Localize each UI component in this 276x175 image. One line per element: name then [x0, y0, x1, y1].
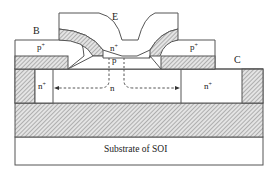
- right-spacer-oxide: [161, 56, 215, 69]
- emitter-label: E: [112, 12, 118, 22]
- right-poly-doping: p: [190, 42, 195, 52]
- right-isolation: [242, 69, 263, 103]
- emitter-sup: +: [115, 43, 118, 49]
- emitter-doping: n: [110, 43, 115, 53]
- right-n-plus-label: n+: [204, 82, 212, 91]
- collector-label: C: [234, 55, 241, 65]
- left-isolation: [15, 69, 35, 103]
- buried-oxide: [15, 103, 263, 137]
- collector-n-label: n: [110, 84, 115, 93]
- left-n-plus-label: n+: [38, 82, 46, 91]
- right-contact-doping: n: [204, 81, 209, 91]
- left-p-plus-label: p+: [37, 43, 45, 52]
- base-label: B: [33, 26, 40, 36]
- left-poly-sup: +: [42, 42, 45, 48]
- base-p-label: p: [112, 56, 117, 65]
- left-contact-sup: +: [43, 81, 46, 87]
- left-spacer-oxide: [15, 56, 68, 69]
- substrate-label: Substrate of SOI: [104, 145, 167, 155]
- left-contact-doping: n: [38, 81, 43, 91]
- right-p-plus-label: p+: [190, 43, 198, 52]
- left-poly-doping: p: [37, 42, 42, 52]
- right-contact-sup: +: [209, 81, 212, 87]
- emitter-n-plus-label: n+: [110, 44, 118, 53]
- right-poly-sup: +: [195, 42, 198, 48]
